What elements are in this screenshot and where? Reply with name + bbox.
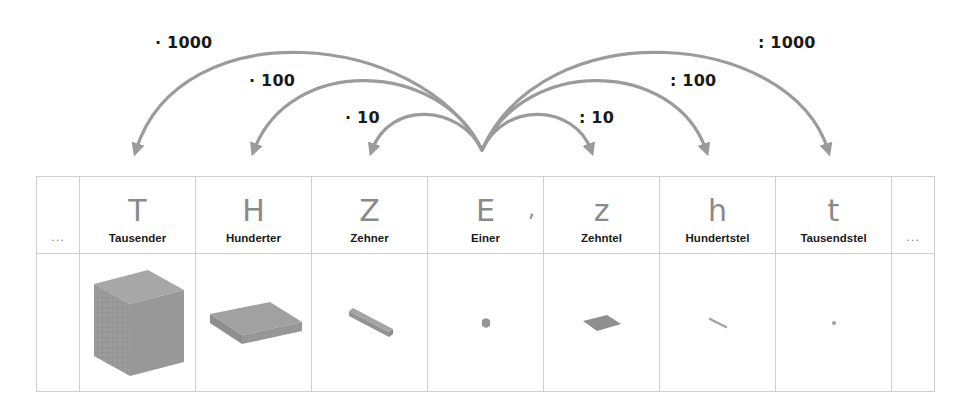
hundredth-rod-cell — [660, 254, 776, 392]
ellipsis-left: ... — [37, 231, 79, 244]
hundredth-rod-icon — [707, 316, 729, 330]
empty-cell-right — [892, 254, 935, 392]
place-letter: h — [660, 194, 775, 228]
column-header-tausender: TTausender — [80, 177, 196, 254]
column-header-tausendstel: tTausendstel — [776, 177, 892, 254]
column-header-hunderter: HHunderter — [196, 177, 312, 254]
place-letter: t — [776, 194, 891, 228]
left-ellipsis-cell: ... — [37, 177, 80, 254]
column-header-einer: EEiner, — [428, 177, 544, 254]
thousand-cube-cell — [80, 254, 196, 392]
place-letter: T — [80, 194, 195, 228]
blocks-row — [37, 254, 935, 392]
place-letter: Z — [312, 194, 427, 228]
place-name: Tausender — [80, 232, 195, 244]
unit-cube-icon — [480, 317, 492, 329]
thousandth-dot-cell — [776, 254, 892, 392]
arrow-multiply-1000 — [136, 52, 482, 150]
right-ellipsis-cell: ... — [892, 177, 935, 254]
decimal-comma: , — [528, 197, 535, 222]
place-letter: E — [428, 194, 543, 228]
ten-rod-icon — [345, 305, 395, 340]
column-header-zehntel: zZehntel — [544, 177, 660, 254]
label-divide-10: : 10 — [579, 108, 614, 127]
label-divide-100: : 100 — [670, 71, 716, 90]
place-name: Einer — [428, 232, 543, 244]
place-name: Zehntel — [544, 232, 659, 244]
place-name: Zehner — [312, 232, 427, 244]
place-name: Hundertstel — [660, 232, 775, 244]
place-value-table: ... TTausender HHunderter ZZehner EEiner… — [36, 176, 935, 392]
empty-cell-left — [37, 254, 80, 392]
arrow-divide-1000 — [482, 52, 828, 150]
place-name: Tausendstel — [776, 232, 891, 244]
column-header-zehner: ZZehner — [312, 177, 428, 254]
column-header-hundertstel: hHundertstel — [660, 177, 776, 254]
thousand-cube-icon — [88, 268, 188, 378]
label-multiply-100: · 100 — [249, 71, 295, 90]
tenth-plate-cell — [544, 254, 660, 392]
place-name: Hunderter — [196, 232, 311, 244]
arrows-layer — [0, 0, 966, 180]
hundred-plate-cell — [196, 254, 312, 392]
thousandth-dot-icon — [831, 320, 837, 326]
ten-rod-cell — [312, 254, 428, 392]
place-letter: z — [544, 194, 659, 228]
header-row: ... TTausender HHunderter ZZehner EEiner… — [37, 177, 935, 254]
hundred-plate-icon — [204, 298, 304, 348]
place-letter: H — [196, 194, 311, 228]
label-divide-1000: : 1000 — [758, 33, 816, 52]
unit-cube-cell — [428, 254, 544, 392]
ellipsis-right: ... — [892, 231, 934, 244]
arrow-multiply-10 — [372, 114, 482, 150]
label-multiply-10: · 10 — [345, 108, 380, 127]
label-multiply-1000: · 1000 — [155, 33, 212, 52]
tenth-plate-icon — [581, 313, 623, 333]
